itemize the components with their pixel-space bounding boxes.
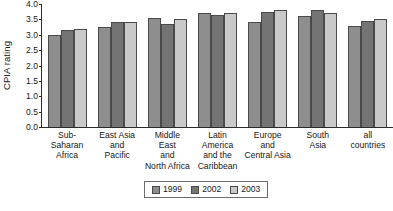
x-axis-category-label: EuropeandCentral Asia — [243, 130, 293, 171]
legend-swatch — [230, 186, 238, 194]
y-axis-tick-mark — [39, 127, 42, 128]
bar — [48, 35, 61, 127]
bar-group — [92, 4, 142, 127]
bar-group — [42, 4, 92, 127]
bar — [311, 10, 324, 127]
bar — [324, 13, 337, 127]
bar — [248, 22, 261, 127]
x-axis-category-label: East AsiaandPacific — [92, 130, 142, 171]
bar — [298, 16, 311, 127]
x-axis-category-label: MiddleEastandNorth Africa — [142, 130, 192, 171]
bar — [74, 29, 87, 127]
y-axis-tick-label: 0.5 — [14, 107, 38, 116]
y-axis-tick-label: 3.5 — [14, 15, 38, 24]
bar-groups — [42, 4, 393, 127]
x-axis-category-labels: Sub-SaharanAfricaEast AsiaandPacificMidd… — [42, 130, 393, 171]
bar — [261, 12, 274, 127]
x-axis-category-label: LatinAmericaand theCaribbean — [192, 130, 242, 171]
bar — [224, 13, 237, 127]
bar-group — [343, 4, 393, 127]
bar — [198, 13, 211, 127]
plot-area: 4.03.53.02.52.01.51.00.50.0 — [14, 4, 393, 128]
y-axis-tick-label: 2.5 — [14, 46, 38, 55]
x-axis-category-label: Sub-SaharanAfrica — [42, 130, 92, 171]
bar — [274, 10, 287, 127]
legend-label: 2003 — [241, 185, 260, 194]
bar — [124, 22, 137, 127]
x-axis-category-label: allcountries — [343, 130, 393, 171]
y-axis-tick-label: 0.0 — [14, 123, 38, 132]
bar — [211, 15, 224, 127]
bar-group — [192, 4, 242, 127]
legend-item: 2002 — [191, 185, 221, 194]
y-axis-tick-label: 1.5 — [14, 77, 38, 86]
bar — [61, 30, 74, 127]
bar — [148, 18, 161, 127]
y-axis-tick-label: 2.0 — [14, 61, 38, 70]
y-axis-title: CPIA rating — [0, 0, 14, 130]
y-axis-tick-label: 3.0 — [14, 30, 38, 39]
x-axis-category-label: SouthAsia — [293, 130, 343, 171]
y-axis-tick-label: 1.0 — [14, 92, 38, 101]
legend-swatch — [152, 186, 160, 194]
bar-group — [243, 4, 293, 127]
bar — [98, 27, 111, 127]
y-axis-title-label: CPIA rating — [2, 40, 13, 89]
y-axis-tick-label: 4.0 — [14, 0, 38, 8]
bar — [361, 21, 374, 127]
x-axis-line — [41, 127, 393, 128]
legend-label: 2002 — [202, 185, 221, 194]
bar — [174, 19, 187, 127]
bar-group — [142, 4, 192, 127]
cpia-rating-bar-chart: CPIA rating 4.03.53.02.52.01.51.00.50.0 … — [0, 0, 393, 211]
legend-item: 2003 — [230, 185, 260, 194]
legend-label: 1999 — [163, 185, 182, 194]
bar — [374, 19, 387, 127]
legend-swatch — [191, 186, 199, 194]
y-axis-tick-labels: 4.03.53.02.52.01.51.00.50.0 — [14, 4, 38, 128]
legend-item: 1999 — [152, 185, 182, 194]
chart-legend: 199920022003 — [144, 181, 268, 198]
bar-group — [293, 4, 343, 127]
bar — [161, 24, 174, 127]
bar — [111, 22, 124, 127]
bar — [348, 26, 361, 127]
